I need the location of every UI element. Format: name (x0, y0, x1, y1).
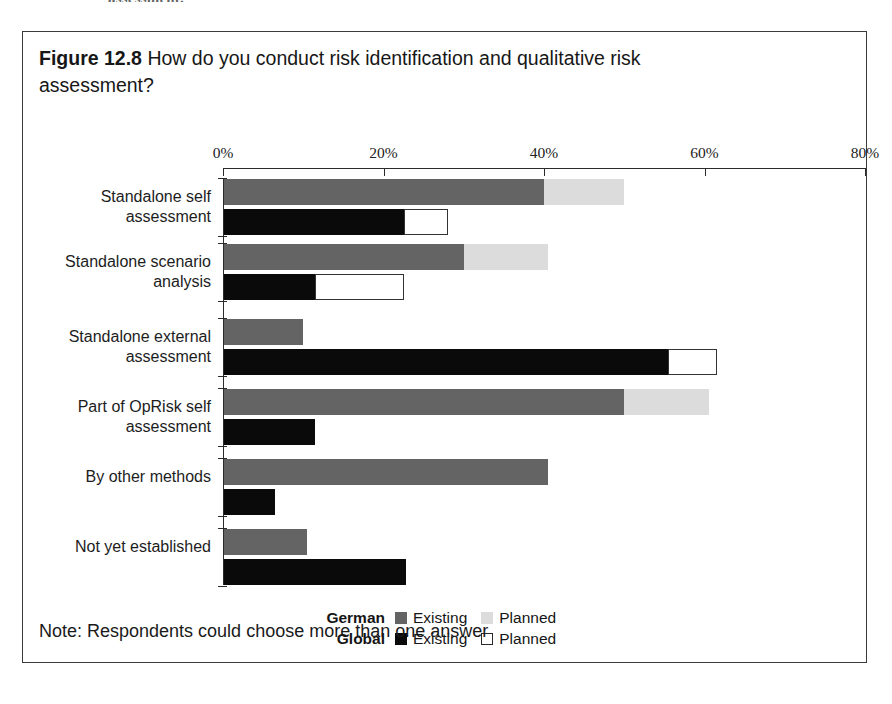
x-axis-tick (544, 168, 545, 176)
category-label: Standalone external assessment (11, 327, 211, 367)
bar-global-existing (223, 209, 404, 235)
bar-german-existing (223, 319, 303, 345)
bar-global-existing (223, 419, 315, 445)
page-bleed-text: assessment. (108, 0, 184, 2)
bar-global-existing (223, 559, 406, 585)
category-label: By other methods (11, 467, 211, 487)
x-axis-tick (384, 168, 385, 176)
x-axis-tick-label: 80% (851, 144, 879, 162)
category-label: Part of OpRisk self assessment (11, 397, 211, 437)
bar-german-existing (223, 179, 544, 205)
legend-entry: Planned (481, 609, 556, 627)
x-axis-tick-label: 0% (213, 144, 234, 162)
figure-frame: Figure 12.8 How do you conduct risk iden… (22, 31, 867, 663)
figure-note: Note: Respondents could choose more than… (39, 621, 488, 642)
x-axis-tick (223, 168, 224, 176)
bar-global-existing (223, 349, 668, 375)
bar-german-existing (223, 459, 548, 485)
bar-german-planned (624, 389, 708, 415)
x-axis-tick-label: 20% (369, 144, 397, 162)
bar-german-planned (544, 179, 624, 205)
chart-plot-area: 0%20%40%60%80%Standalone self assessment… (23, 32, 868, 664)
bar-german-existing (223, 389, 624, 415)
y-axis-baseline (223, 179, 224, 585)
y-axis-tick (218, 586, 227, 587)
bar-global-existing (223, 489, 275, 515)
bar-global-planned (315, 274, 403, 300)
x-axis-tick-label: 40% (530, 144, 558, 162)
legend-entry-label: Planned (499, 609, 556, 627)
x-axis-tick (865, 168, 866, 176)
legend-entry: Planned (481, 630, 556, 648)
category-label: Standalone self assessment (11, 187, 211, 227)
legend-entry-label: Planned (499, 630, 556, 648)
category-label: Not yet established (11, 537, 211, 557)
bar-global-planned (668, 349, 716, 375)
bar-german-existing (223, 244, 464, 270)
x-axis-tick (705, 168, 706, 176)
x-axis-tick-label: 60% (690, 144, 718, 162)
bar-german-planned (464, 244, 548, 270)
bar-german-existing (223, 529, 307, 555)
category-label: Standalone scenario analysis (11, 252, 211, 292)
bar-global-planned (404, 209, 448, 235)
bar-global-existing (223, 274, 315, 300)
